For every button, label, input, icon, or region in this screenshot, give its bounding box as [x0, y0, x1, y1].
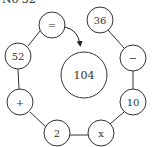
- node-label: x: [98, 128, 104, 139]
- ring-node-times: x: [88, 120, 114, 146]
- node-label: =: [48, 20, 56, 31]
- ring-node-10: 10: [120, 89, 146, 115]
- node-label: 2: [54, 128, 60, 139]
- node-label: −: [129, 53, 137, 64]
- ring-node-52: 52: [5, 43, 31, 69]
- ring-node-plus: +: [7, 89, 33, 115]
- node-label: 52: [12, 51, 25, 62]
- arrow-icon: [65, 27, 80, 44]
- ring-diagram: 104 = 36 − 10 x 2 + 52: [0, 0, 154, 147]
- node-label: 10: [127, 97, 140, 108]
- ring-node-2: 2: [44, 120, 70, 146]
- center-node: 104: [61, 52, 107, 98]
- ring-node-minus: −: [120, 45, 146, 71]
- center-value: 104: [74, 69, 95, 82]
- node-label: +: [16, 97, 24, 108]
- ring-node-36: 36: [87, 7, 113, 33]
- ring-node-equals: =: [39, 12, 65, 38]
- node-label: 36: [94, 15, 107, 26]
